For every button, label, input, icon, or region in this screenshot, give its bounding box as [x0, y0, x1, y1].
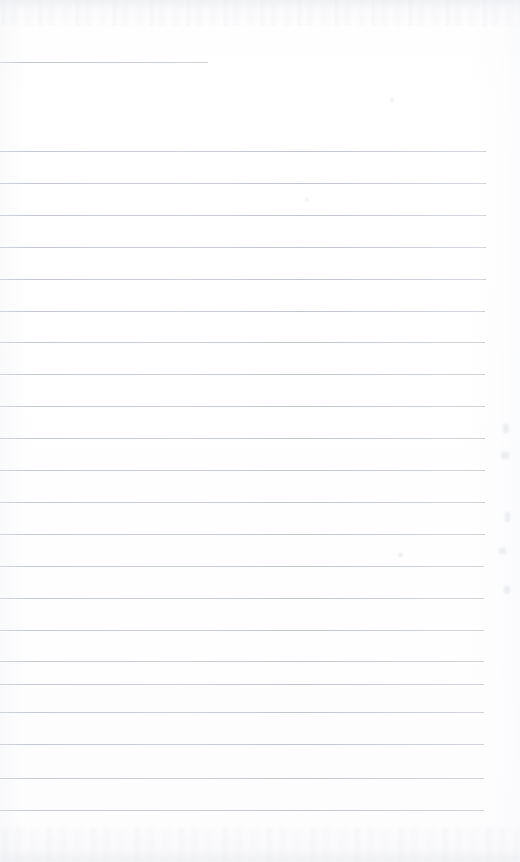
ruled-line — [0, 630, 484, 631]
ruled-line — [0, 566, 484, 567]
ruled-line — [0, 744, 484, 745]
ruled-line — [0, 374, 485, 375]
paper-background — [0, 0, 520, 862]
ruled-line — [0, 534, 485, 535]
ruled-line — [0, 778, 484, 779]
ruled-line — [0, 810, 484, 811]
ruled-line — [0, 406, 485, 407]
scan-speck — [501, 452, 509, 459]
ruled-line — [0, 279, 486, 280]
scan-edge-noise-bottom — [0, 828, 520, 862]
scan-speck — [504, 586, 510, 594]
ruled-line — [0, 598, 484, 599]
scan-speck — [398, 553, 403, 557]
scan-speck — [305, 198, 309, 201]
scan-speck — [390, 98, 394, 102]
scan-speck — [505, 512, 510, 522]
scan-edge-noise-top — [0, 0, 520, 26]
ruled-line — [0, 661, 484, 662]
ruled-line — [0, 342, 485, 343]
ruled-line — [0, 151, 486, 152]
paper-vignette — [0, 0, 520, 862]
scanned-page — [0, 0, 520, 862]
ruled-line — [0, 712, 484, 713]
scan-speck — [499, 548, 506, 554]
ruled-line — [0, 470, 485, 471]
ruled-line — [0, 311, 485, 312]
ruled-line — [0, 438, 485, 439]
ruled-line — [0, 502, 485, 503]
ruled-line-short — [0, 62, 208, 63]
scan-speck — [503, 424, 509, 433]
ruled-line — [0, 684, 484, 685]
ruled-line — [0, 215, 486, 216]
ruled-line — [0, 183, 486, 184]
ruled-line — [0, 247, 486, 248]
